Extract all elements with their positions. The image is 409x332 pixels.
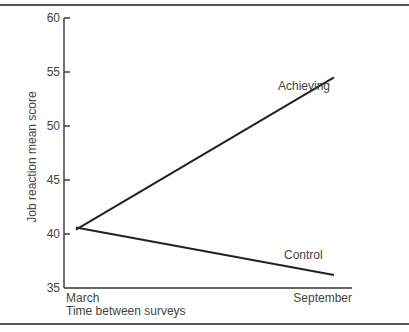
x-tick-label-end: September	[293, 291, 352, 305]
y-tick-label: 50	[47, 119, 61, 133]
series-line-achieving	[76, 77, 334, 229]
x-axis-title: Time between surveys	[66, 304, 186, 318]
y-tick-label: 55	[47, 65, 61, 79]
x-tick-label-start: March	[66, 291, 99, 305]
y-tick-label: 60	[47, 11, 61, 25]
y-tick-label: 35	[47, 281, 61, 295]
series-label-control: Control	[284, 248, 323, 262]
series-label-achieving: Achieving	[278, 79, 330, 93]
y-tick-label: 40	[47, 227, 61, 241]
y-tick-label: 45	[47, 173, 61, 187]
y-axis-title: Job reaction mean score	[25, 91, 39, 223]
line-chart: 354045505560Job reaction mean scoreMarch…	[0, 0, 409, 332]
